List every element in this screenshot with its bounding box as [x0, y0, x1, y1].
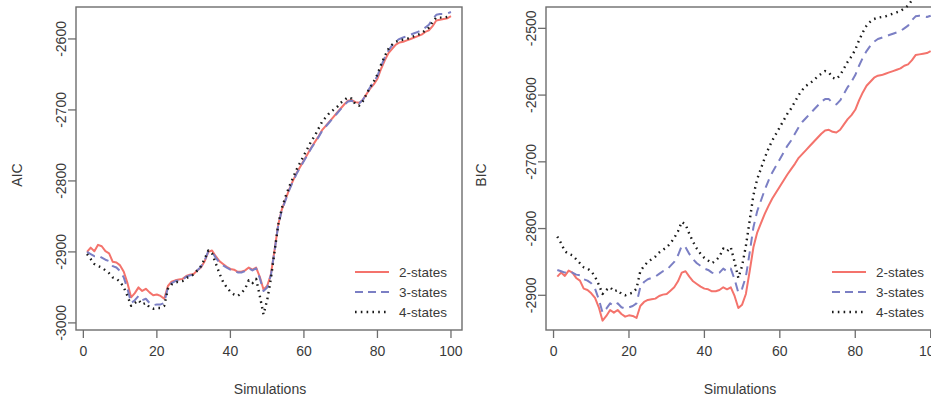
aic-legend-label-4-states: 4-states — [399, 305, 447, 320]
aic-x-tick-label: 40 — [223, 343, 239, 359]
bic-x-tick-label: 0 — [550, 343, 558, 359]
aic-x-tick-label: 0 — [79, 343, 87, 359]
bic-x-tick-label: 40 — [697, 343, 713, 359]
aic-plot-svg: -2600-2700-2800-2900-3000020406080100 2-… — [0, 0, 470, 409]
aic-legend-group: 2-states3-states4-states — [355, 265, 447, 320]
aic-legend-label-3-states: 3-states — [399, 285, 447, 300]
aic-legend-label-2-states: 2-states — [399, 265, 447, 280]
bic-x-tick-label: 80 — [847, 343, 863, 359]
chart-panel-bic: -2500-2600-2700-2800-2900020406080100 2-… — [460, 0, 931, 409]
bic-y-tick-label: -2900 — [523, 277, 539, 313]
bic-x-tick-label: 60 — [772, 343, 788, 359]
aic-series-4-states — [87, 16, 451, 315]
bic-axes-group: -2500-2600-2700-2800-2900020406080100 — [523, 7, 931, 359]
aic-series-2-states — [87, 16, 451, 299]
bic-y-tick-label: -2500 — [523, 10, 539, 46]
bic-y-tick-label: -2800 — [523, 210, 539, 246]
bic-series-2-states — [557, 51, 930, 321]
bic-legend-label-4-states: 4-states — [876, 305, 924, 320]
aic-x-tick-label: 20 — [149, 343, 165, 359]
aic-series-group — [87, 12, 451, 314]
bic-y-tick-label: -2700 — [523, 144, 539, 180]
bic-y-tick-label: -2600 — [523, 77, 539, 113]
bic-x-tick-label: 100 — [919, 343, 931, 359]
bic-x-axis-title: Simulations — [704, 381, 776, 397]
bic-legend-group: 2-states3-states4-states — [832, 265, 924, 320]
bic-plot-svg: -2500-2600-2700-2800-2900020406080100 2-… — [460, 0, 931, 409]
aic-y-tick-label: -2600 — [53, 21, 69, 57]
aic-x-tick-label: 60 — [296, 343, 312, 359]
bic-plot-frame — [546, 7, 931, 330]
aic-y-axis-title: AIC — [9, 163, 25, 186]
aic-x-axis-title: Simulations — [234, 381, 306, 397]
bic-legend-label-3-states: 3-states — [876, 285, 924, 300]
aic-y-tick-label: -3000 — [53, 305, 69, 341]
aic-y-tick-label: -2800 — [53, 163, 69, 199]
bic-legend-label-2-states: 2-states — [876, 265, 924, 280]
bic-x-tick-label: 20 — [621, 343, 637, 359]
aic-x-tick-label: 80 — [370, 343, 386, 359]
chart-panel-aic: -2600-2700-2800-2900-3000020406080100 2-… — [0, 0, 470, 409]
figure-root: -2600-2700-2800-2900-3000020406080100 2-… — [0, 0, 931, 409]
aic-y-tick-label: -2700 — [53, 92, 69, 128]
bic-series-4-states — [557, 0, 930, 295]
bic-series-3-states — [557, 16, 930, 313]
aic-series-3-states — [87, 12, 451, 305]
bic-series-group — [557, 0, 930, 321]
bic-y-axis-title: BIC — [473, 163, 489, 186]
aic-y-tick-label: -2900 — [53, 234, 69, 270]
